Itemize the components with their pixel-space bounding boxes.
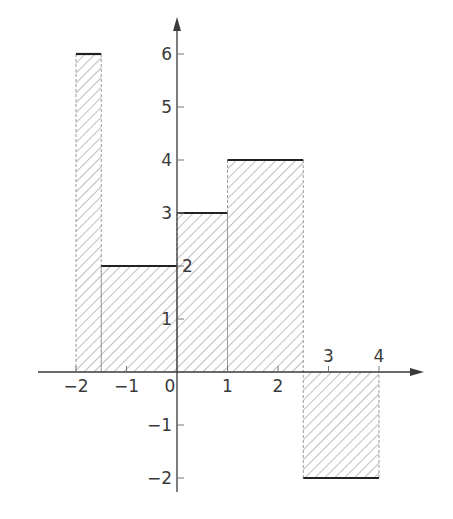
bar-5 (303, 372, 379, 478)
x-tick-label: 1 (222, 376, 233, 396)
x-tick-label: −1 (114, 376, 139, 396)
x-tick-label: 2 (273, 376, 284, 396)
y-tick-label: 6 (161, 44, 172, 64)
x-tick-label: 0 (165, 376, 176, 396)
x-tick-label: 4 (374, 346, 385, 366)
bar-4 (228, 160, 304, 372)
x-axis-arrow-icon (410, 368, 424, 376)
y-axis-arrow-icon (173, 17, 181, 31)
y-tick-label: 3 (161, 203, 172, 223)
bar-3 (177, 213, 228, 372)
histogram-chart: −2−101234−2−1123456 (0, 0, 453, 519)
y-tick-label: −1 (147, 415, 172, 435)
y-tick-label: 1 (161, 309, 172, 329)
y-tick-label: 4 (161, 150, 172, 170)
y-tick-label: 5 (161, 97, 172, 117)
x-tick-label: −2 (63, 376, 88, 396)
bars-group (76, 54, 379, 478)
x-tick-label: 3 (323, 346, 334, 366)
bar-1 (76, 54, 101, 372)
y-tick-label: 2 (182, 256, 193, 276)
y-tick-label: −2 (147, 468, 172, 488)
